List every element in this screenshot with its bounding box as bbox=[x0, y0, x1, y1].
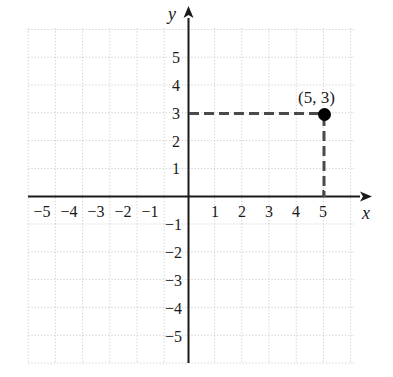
x-tick-label: −2 bbox=[114, 203, 131, 220]
y-tick-label: 3 bbox=[172, 105, 180, 122]
x-tick-label: 5 bbox=[319, 203, 327, 220]
data-point-marker[interactable] bbox=[318, 108, 331, 121]
y-tick-label: −4 bbox=[165, 300, 182, 317]
y-axis-label: y bbox=[166, 4, 176, 24]
data-point-label: (5, 3) bbox=[298, 88, 335, 107]
y-tick-label: 1 bbox=[172, 160, 180, 177]
x-axis-label: x bbox=[361, 203, 370, 223]
chart-background bbox=[0, 0, 393, 377]
y-tick-label: 2 bbox=[172, 133, 180, 150]
x-tick-label: 2 bbox=[238, 203, 246, 220]
x-tick-label: −3 bbox=[87, 203, 104, 220]
x-tick-label: −1 bbox=[141, 203, 158, 220]
x-tick-label: −5 bbox=[33, 203, 50, 220]
y-tick-label: 4 bbox=[172, 77, 180, 94]
x-tick-label: 3 bbox=[265, 203, 273, 220]
y-tick-label: −3 bbox=[165, 272, 182, 289]
y-tick-label: −5 bbox=[165, 328, 182, 345]
x-tick-label: −4 bbox=[60, 203, 77, 220]
x-tick-label: 4 bbox=[292, 203, 300, 220]
y-tick-label: 5 bbox=[172, 49, 180, 66]
y-tick-label: −1 bbox=[165, 216, 182, 233]
y-tick-label: −2 bbox=[165, 244, 182, 261]
x-tick-label: 1 bbox=[211, 203, 219, 220]
coordinate-plane-graph: (5, 3) −5 −4 −3 −2 −1 1 2 3 4 5 5 4 3 2 … bbox=[0, 0, 393, 377]
